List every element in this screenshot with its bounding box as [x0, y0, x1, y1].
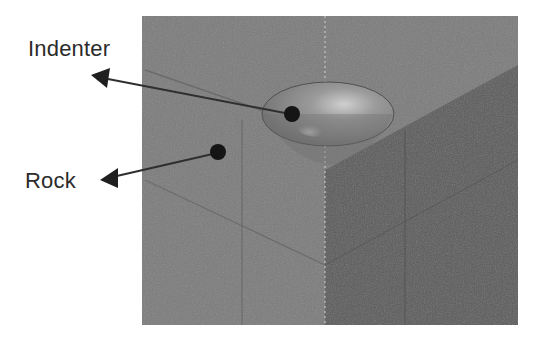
- arrowhead-icon: [91, 68, 110, 88]
- arrowhead-icon: [100, 168, 118, 188]
- indenter-label: Indenter: [28, 36, 110, 62]
- indenter-marker-dot: [284, 106, 300, 122]
- indenter-rock-diagram: Indenter Rock: [0, 0, 540, 339]
- rock-marker-dot: [210, 144, 226, 160]
- rock-block: [142, 16, 518, 325]
- rock-label: Rock: [25, 168, 76, 194]
